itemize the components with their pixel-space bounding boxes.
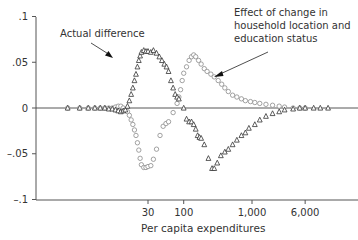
data-point-circle xyxy=(216,78,220,82)
data-point-triangle xyxy=(257,117,262,122)
y-tick-label: –.05 xyxy=(7,148,28,159)
data-point-circle xyxy=(182,71,186,75)
x-tick-label: 1,000 xyxy=(238,207,267,218)
arrow-line xyxy=(218,52,268,75)
x-tick-label: 6,000 xyxy=(291,207,320,218)
data-point-circle xyxy=(132,128,136,132)
data-point-circle xyxy=(134,133,138,137)
data-point-triangle xyxy=(202,142,207,147)
annotation-effect-line: Effect of change in xyxy=(234,7,328,18)
data-point-triangle xyxy=(270,111,275,116)
data-point-triangle xyxy=(230,142,235,147)
data-point-triangle xyxy=(226,146,231,151)
data-point-triangle xyxy=(193,126,198,131)
data-point-triangle xyxy=(171,85,176,90)
data-point-circle xyxy=(129,118,133,122)
data-point-circle xyxy=(223,86,227,90)
data-point-triangle xyxy=(125,103,130,108)
data-point-circle xyxy=(138,156,142,160)
data-point-circle xyxy=(243,98,247,102)
data-point-circle xyxy=(137,148,141,152)
data-point-circle xyxy=(166,120,170,124)
y-tick-label: .1 xyxy=(18,11,28,22)
data-point-circle xyxy=(149,163,153,167)
data-point-triangle xyxy=(127,98,132,103)
data-point-triangle xyxy=(246,125,251,130)
data-point-circle xyxy=(230,93,234,97)
data-point-circle xyxy=(154,147,158,151)
series-actual-triangles xyxy=(65,48,330,171)
data-point-triangle xyxy=(243,130,248,135)
data-point-circle xyxy=(219,82,223,86)
data-point-circle xyxy=(253,100,257,104)
data-point-triangle xyxy=(129,92,134,97)
chart: .1.050–.05–.1301001,0006,000 Actual diff… xyxy=(0,0,358,240)
x-axis-label: Per capita expenditures xyxy=(141,222,265,234)
data-point-triangle xyxy=(234,137,239,142)
data-point-circle xyxy=(277,104,281,108)
data-point-circle xyxy=(175,101,179,105)
annotation-effect-line: household location and xyxy=(234,20,351,31)
data-point-triangle xyxy=(134,71,139,76)
data-point-triangle xyxy=(277,109,282,114)
x-tick-label: 100 xyxy=(174,207,193,218)
x-tick-label: 30 xyxy=(142,207,155,218)
arrow-head-icon xyxy=(214,71,224,77)
arrow-head-icon xyxy=(105,51,113,58)
series-effect-circles xyxy=(65,53,307,170)
data-point-circle xyxy=(180,78,184,82)
data-point-triangle xyxy=(130,85,135,90)
data-point-circle xyxy=(270,103,274,107)
data-point-circle xyxy=(235,95,239,99)
data-point-circle xyxy=(258,101,262,105)
data-point-triangle xyxy=(135,64,140,69)
data-point-circle xyxy=(264,102,268,106)
data-point-circle xyxy=(171,110,175,114)
data-point-triangle xyxy=(206,156,211,161)
y-tick-label: .05 xyxy=(12,57,28,68)
y-tick-label: 0 xyxy=(22,103,28,114)
data-point-circle xyxy=(178,88,182,92)
data-point-triangle xyxy=(151,48,156,53)
data-point-triangle xyxy=(169,78,174,83)
data-point-triangle xyxy=(166,69,171,74)
data-point-circle xyxy=(248,99,252,103)
data-point-triangle xyxy=(215,160,220,165)
data-point-circle xyxy=(151,157,155,161)
data-point-circle xyxy=(135,141,139,145)
data-point-circle xyxy=(226,89,230,93)
y-tick-label: –.1 xyxy=(13,194,28,205)
data-point-circle xyxy=(199,62,203,66)
data-point-circle xyxy=(127,113,131,117)
data-point-triangle xyxy=(132,78,137,83)
annotation-effect-line: education status xyxy=(234,33,318,44)
data-point-circle xyxy=(184,65,188,69)
data-point-triangle xyxy=(252,122,257,127)
annotation-actual-difference: Actual difference xyxy=(60,28,145,39)
data-point-triangle xyxy=(136,58,141,63)
data-point-circle xyxy=(158,133,162,137)
data-point-triangle xyxy=(264,114,269,119)
data-point-circle xyxy=(131,122,135,126)
